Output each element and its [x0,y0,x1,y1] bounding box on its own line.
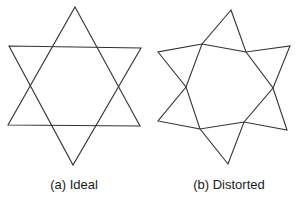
distorted-star-diagram [158,10,290,164]
caption-distorted: (b) Distorted [193,177,265,192]
caption-ideal: (a) Ideal [50,177,98,192]
ideal-star-diagram [8,7,141,165]
distorted-inner-hexagon [186,44,273,129]
ideal-triangle-2 [9,46,141,165]
ideal-triangle-1 [8,7,140,126]
figure-canvas [0,0,297,201]
distorted-star-outline [158,10,290,164]
